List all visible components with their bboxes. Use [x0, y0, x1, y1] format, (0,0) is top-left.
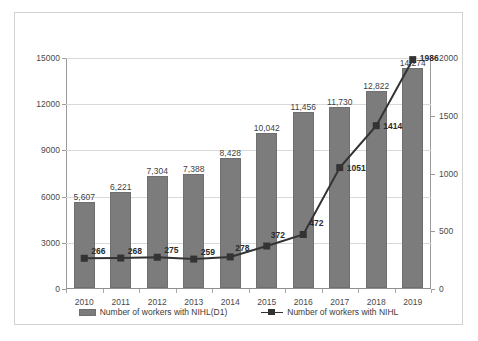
line-marker — [300, 231, 307, 238]
line-marker — [154, 254, 161, 261]
line-data-label: 259 — [201, 248, 215, 257]
category-axis-tick — [103, 289, 104, 293]
line-data-label: 372 — [271, 231, 285, 240]
line-data-label: 472 — [309, 219, 323, 228]
category-axis-label: 2018 — [367, 298, 386, 307]
right-axis-tick-label: 500 — [439, 227, 453, 236]
category-axis-label: 2011 — [112, 298, 130, 307]
left-axis-tick-label: 0 — [55, 285, 60, 294]
legend-item-line[interactable]: Number of workers with NIHL — [261, 307, 398, 317]
chart-legend: Number of workers with NIHL(D1) Number o… — [15, 307, 462, 317]
left-axis-tick-label: 9000 — [41, 146, 60, 155]
category-axis-tick — [139, 289, 140, 293]
category-axis-tick — [176, 289, 177, 293]
left-axis-tick-label: 15000 — [36, 54, 60, 63]
category-axis-tick — [212, 289, 213, 293]
line-data-label: 275 — [164, 246, 178, 255]
right-axis-tick-label: 1500 — [439, 112, 458, 121]
line-data-label: 266 — [91, 247, 105, 256]
line-data-label: 1414 — [383, 122, 402, 131]
line-marker — [227, 253, 234, 260]
category-axis-tick — [249, 289, 250, 293]
category-axis-label: 2010 — [75, 298, 94, 307]
line-data-label: 1051 — [347, 164, 366, 173]
left-axis-tick-label: 6000 — [41, 192, 60, 201]
category-axis-tick — [285, 289, 286, 293]
line-data-label: 268 — [128, 247, 142, 256]
line-marker — [117, 255, 124, 262]
category-axis-tick — [358, 289, 359, 293]
legend-item-bar[interactable]: Number of workers with NIHL(D1) — [79, 307, 228, 317]
right-axis-tick-label: 2000 — [439, 54, 458, 63]
line-marker — [81, 255, 88, 262]
category-axis-label: 2014 — [221, 298, 240, 307]
category-axis-label: 2016 — [294, 298, 313, 307]
category-axis-label: 2012 — [148, 298, 167, 307]
legend-label-line: Number of workers with NIHL — [287, 307, 398, 317]
line-swatch-icon — [261, 308, 283, 316]
category-axis-label: 2015 — [257, 298, 276, 307]
left-axis-tick-label: 3000 — [41, 239, 60, 248]
chart-frame: 03000600090001200015000 0500100015002000… — [14, 12, 463, 325]
legend-label-bar: Number of workers with NIHL(D1) — [100, 307, 228, 317]
category-axis-label: 2017 — [330, 298, 349, 307]
line-marker — [336, 164, 343, 171]
category-axis-tick — [66, 289, 67, 293]
category-axis-tick — [322, 289, 323, 293]
line-data-label: 278 — [235, 244, 249, 253]
right-axis-tick-mark — [431, 231, 435, 232]
right-axis-tick-mark — [431, 116, 435, 117]
line-markers — [81, 56, 417, 262]
right-axis-tick-label: 0 — [439, 285, 444, 294]
left-axis-tick-label: 12000 — [36, 100, 60, 109]
category-axis-tick — [395, 289, 396, 293]
line-marker — [263, 243, 270, 250]
line-series — [66, 58, 431, 289]
right-axis-tick-label: 1000 — [439, 169, 458, 178]
plot-area: 03000600090001200015000 0500100015002000… — [66, 58, 431, 289]
line-data-label: 1986 — [420, 54, 439, 63]
bar-swatch-icon — [79, 309, 96, 316]
category-axis-label: 2013 — [184, 298, 203, 307]
line-marker — [373, 122, 380, 129]
line-marker — [190, 256, 197, 263]
category-axis-tick — [431, 289, 432, 293]
line-path — [84, 60, 413, 260]
right-axis-tick-mark — [431, 174, 435, 175]
line-marker — [409, 56, 416, 63]
category-axis-label: 2019 — [403, 298, 422, 307]
